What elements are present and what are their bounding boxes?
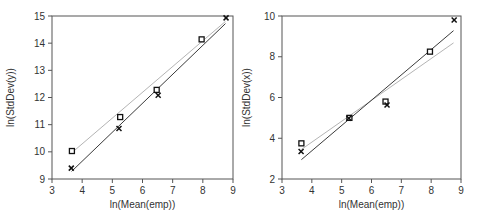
chart-panel-1: 34567899101112131415ln(Mean(emp))ln(StdD… bbox=[5, 11, 236, 211]
y-tick-label: 15 bbox=[34, 11, 46, 22]
plot-frame bbox=[282, 16, 461, 179]
figure-canvas: 34567899101112131415ln(Mean(emp))ln(StdD… bbox=[0, 0, 479, 219]
x-tick-label: 6 bbox=[140, 185, 146, 196]
x-marker bbox=[116, 126, 121, 131]
x-tick-label: 8 bbox=[428, 185, 434, 196]
y-tick-label: 9 bbox=[39, 174, 45, 185]
square-marker bbox=[299, 141, 304, 146]
x-tick-label: 7 bbox=[399, 185, 405, 196]
plot-frame bbox=[52, 16, 233, 179]
x-axis-label: ln(Mean(emp)) bbox=[110, 199, 176, 210]
x-tick-label: 3 bbox=[49, 185, 55, 196]
x-tick-label: 4 bbox=[309, 185, 315, 196]
square-marker bbox=[427, 49, 432, 54]
y-tick-label: 6 bbox=[269, 92, 275, 103]
x-tick-label: 8 bbox=[200, 185, 206, 196]
y-tick-label: 10 bbox=[34, 146, 46, 157]
y-axis-label: ln(StdDev(x)) bbox=[241, 68, 252, 127]
y-tick-label: 14 bbox=[34, 38, 46, 49]
x-tick-label: 9 bbox=[458, 185, 464, 196]
y-tick-label: 8 bbox=[269, 51, 275, 62]
square-marker bbox=[118, 115, 123, 120]
y-tick-label: 11 bbox=[35, 119, 46, 130]
x-marker bbox=[156, 93, 161, 98]
x-tick-label: 5 bbox=[110, 185, 116, 196]
y-tick-label: 13 bbox=[34, 65, 46, 76]
square-fit-line bbox=[301, 43, 453, 150]
x-marker bbox=[69, 166, 74, 171]
square-marker bbox=[69, 149, 74, 154]
y-tick-label: 10 bbox=[264, 11, 276, 22]
x-marker bbox=[452, 18, 457, 23]
square-marker bbox=[154, 87, 159, 92]
y-axis-label: ln(StdDev(y)) bbox=[5, 68, 16, 127]
y-tick-label: 4 bbox=[269, 133, 275, 144]
chart-panel-2: 3456789246810ln(Mean(emp))ln(StdDev(x)) bbox=[241, 11, 464, 211]
x-tick-label: 5 bbox=[339, 185, 345, 196]
y-tick-label: 12 bbox=[34, 92, 46, 103]
x-tick-label: 3 bbox=[279, 185, 285, 196]
x-tick-label: 4 bbox=[79, 185, 85, 196]
y-tick-label: 2 bbox=[269, 174, 275, 185]
x-fit-line bbox=[72, 24, 226, 172]
x-marker bbox=[299, 149, 304, 154]
x-tick-label: 6 bbox=[369, 185, 375, 196]
x-tick-label: 7 bbox=[170, 185, 176, 196]
x-axis-label: ln(Mean(emp)) bbox=[339, 199, 405, 210]
x-tick-label: 9 bbox=[230, 185, 236, 196]
square-marker bbox=[199, 37, 204, 42]
